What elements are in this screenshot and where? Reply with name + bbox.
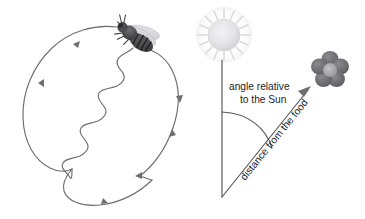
sun-icon <box>196 7 252 63</box>
distance-label: distance from the food <box>238 97 310 183</box>
sun-angle-geometry-group: angle relative to the Sun distance from … <box>196 7 349 197</box>
waggle-dance-path-group <box>23 8 183 205</box>
bee <box>107 8 163 59</box>
figure-canvas: angle relative to the Sun distance from … <box>0 0 365 219</box>
dance-loop-right <box>135 47 178 180</box>
dance-arrow-1 <box>73 41 80 48</box>
flower <box>311 51 349 87</box>
dance-arrowheads <box>38 41 183 204</box>
dance-loop-left <box>23 26 117 171</box>
distance-arrow-head <box>298 86 311 97</box>
dance-arrow-6 <box>135 172 142 179</box>
dance-arrow-3 <box>101 198 108 204</box>
angle-label-line1: angle relative <box>229 81 290 92</box>
dance-arrow-5 <box>169 129 176 137</box>
angle-label-line2: to the Sun <box>240 94 286 105</box>
dance-arrow-4 <box>176 95 183 103</box>
flower-center <box>323 63 337 77</box>
waggle-dance-figure: angle relative to the Sun distance from … <box>0 0 365 219</box>
sun-disc <box>208 19 240 51</box>
waggle-run <box>62 48 133 178</box>
dance-arrow-2 <box>38 79 44 87</box>
